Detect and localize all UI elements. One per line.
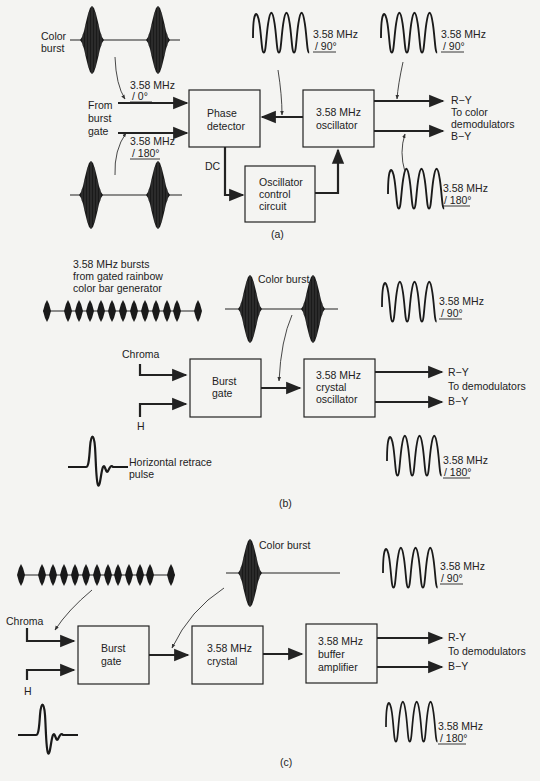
to-demodulators-label: To demodulators [448,380,526,392]
to-demodulators-label: To demodulators [448,645,526,657]
sine-180-out-waveform-icon [388,169,444,209]
panel-c: Color burst Chroma H Burst gate 3.58 MHz… [6,539,526,768]
horizontal-retrace-pulse-icon [68,437,128,486]
input-0-phase: / 0° [132,90,148,102]
r-y-label: R-Y [448,631,466,643]
control-label-1: Oscillator [259,176,303,188]
rainbow-bursts-waveform-icon [17,564,175,586]
panel-a: Color burst 3.58 MHz / 0° From burst gat… [41,6,515,240]
fb-freq: 3.58 MHz [313,28,358,40]
color-burst-waveform-icon [301,275,325,343]
out-r-freq: 3.58 MHz [441,28,486,40]
top-phase: / 90° [441,572,463,584]
crystal-osc-label-1: 3.58 MHz [316,369,361,381]
top-freq: 3.58 MHz [439,295,484,307]
caption-a: (a) [271,228,284,240]
bot-phase: / 180° [444,466,472,478]
rainbow-label-3: color bar generator [73,282,162,294]
r-y-label: R−Y [451,94,472,106]
caption-b: (b) [279,497,292,509]
h-pulse-label-1: Horizontal retrace [129,456,212,468]
color-burst-waveform-icon [80,6,104,74]
input-180-phase: / 180° [132,147,160,159]
buffer-label-1: 3.58 MHz [318,635,363,647]
rainbow-label-1: 3.58 MHz bursts [73,258,149,270]
fb-phase: / 90° [315,40,337,52]
top-freq: 3.58 MHz [440,560,485,572]
b-y-label: B−Y [448,395,468,407]
out-b-phase: / 180° [444,194,472,206]
burst-180-waveform-icon [146,161,170,229]
h-pulse-label-2: pulse [129,468,154,480]
bot-freq: 3.58 MHz [443,454,488,466]
control-label-2: control [259,188,291,200]
color-burst-label: Color burst [259,539,310,551]
color-burst-label: Color burst [258,273,309,285]
bot-freq: 3.58 MHz [438,720,483,732]
chroma-label: Chroma [6,615,44,627]
caption-c: (c) [280,756,292,768]
oscillator-label-2: oscillator [316,119,358,131]
sine-90-waveform-icon [253,13,309,53]
label-from: From [88,99,113,111]
oscillator-label-1: 3.58 MHz [316,106,361,118]
dc-label: DC [205,160,221,172]
crystal-label-1: 3.58 MHz [207,642,252,654]
panel-b: 3.58 MHz bursts from gated rainbow color… [43,258,526,509]
sine-180-waveform-icon [387,436,442,476]
out-r-phase: / 90° [443,40,465,52]
h-label: H [137,420,145,432]
label-color: Color [41,30,67,42]
out-b-freq: 3.58 MHz [443,182,488,194]
crystal-label-2: crystal [207,655,237,667]
color-burst-waveform-icon [238,275,262,343]
burst-gate-label-1: Burst [212,375,237,387]
phase-detector-label-2: detector [207,120,245,132]
r-y-label: R−Y [448,366,469,378]
rainbow-label-2: from gated rainbow [73,270,163,282]
label-burst2: burst [88,112,111,124]
chroma-label: Chroma [122,348,160,360]
top-phase: / 90° [441,307,463,319]
sine-90-waveform-icon [383,548,438,588]
control-label-3: circuit [259,200,287,212]
burst-gate-label-2: gate [101,655,122,667]
demodulators-label: demodulators [451,118,515,130]
label-burst: burst [41,42,64,54]
burst-gate-label-2: gate [212,387,233,399]
label-gate: gate [88,125,109,137]
to-color-label: To color [451,106,488,118]
phase-detector-label-1: Phase [207,107,237,119]
bot-phase: / 180° [440,732,468,744]
sine-180-waveform-icon [386,702,437,742]
b-y-label: B−Y [451,130,471,142]
color-burst-waveform-icon [146,6,170,74]
crystal-osc-label-2: crystal [316,381,346,393]
h-label: H [24,685,32,697]
sine-90-out-waveform-icon [381,13,437,53]
input-180-freq: 3.58 MHz [130,135,175,147]
buffer-label-2: buffer [318,648,345,660]
color-sync-diagram: Color burst 3.58 MHz / 0° From burst gat… [0,0,540,781]
b-y-label: B−Y [448,660,468,672]
burst-gate-label-1: Burst [101,642,126,654]
horizontal-retrace-pulse-icon [18,705,78,754]
buffer-label-3: amplifier [318,661,358,673]
burst-180-waveform-icon [79,161,103,229]
sine-90-waveform-icon [382,282,437,322]
rainbow-bursts-waveform-icon [43,300,202,322]
crystal-osc-label-3: oscillator [316,393,358,405]
